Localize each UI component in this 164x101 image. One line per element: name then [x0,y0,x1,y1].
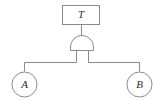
top-event-label: T [78,8,85,20]
basic-event-label-a: A [20,78,28,90]
fault-tree-diagram: T A B [0,0,164,101]
connector-gate-to-a [25,63,77,72]
basic-event-label-b: B [136,78,143,90]
connector-gate-to-b [89,63,140,72]
diagram-svg: T A B [0,0,164,101]
and-gate-shape[interactable] [71,36,94,51]
